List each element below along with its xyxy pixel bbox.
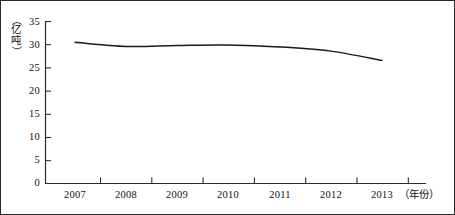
x-axis-ticks: [101, 178, 409, 184]
data-series-line: [75, 42, 382, 60]
chart-figure: （ 亿 吨 ） 35 30 25 20 15 10 5 0 2007 2008 …: [0, 0, 455, 215]
y-axis-ticks: [46, 22, 52, 161]
chart-plot-area: [1, 1, 455, 215]
